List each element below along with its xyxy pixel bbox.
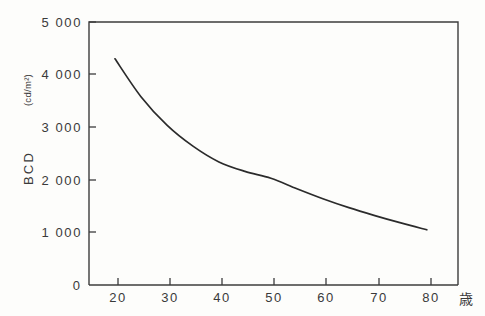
y-tick-label-3000: 3 000 [41, 120, 82, 135]
plot-frame [89, 22, 458, 285]
x-axis-unit-label: 歳 [459, 291, 473, 307]
y-axis-title: BCD [21, 151, 36, 185]
y-axis-ticks [89, 22, 96, 232]
x-tick-label-60: 60 [317, 290, 335, 305]
bcd-decay-curve [115, 59, 427, 230]
x-tick-label-30: 30 [161, 290, 179, 305]
x-tick-label-50: 50 [265, 290, 283, 305]
y-tick-label-2000: 2 000 [41, 173, 82, 188]
bcd-vs-age-line-chart: 5 000 4 000 3 000 2 000 1 000 0 BCD (cd/… [0, 0, 485, 316]
x-tick-label-20: 20 [109, 290, 127, 305]
x-tick-label-80: 80 [422, 290, 440, 305]
y-tick-label-4000: 4 000 [41, 67, 82, 82]
y-axis-unit-label: (cd/m²) [22, 74, 33, 106]
x-tick-label-40: 40 [213, 290, 231, 305]
y-tick-label-1000: 1 000 [41, 225, 82, 240]
x-tick-label-70: 70 [370, 290, 388, 305]
y-tick-label-5000: 5 000 [41, 15, 82, 30]
y-axis-tick-labels: 5 000 4 000 3 000 2 000 1 000 0 [41, 15, 82, 293]
x-axis-tick-labels: 20 30 40 50 60 70 80 [109, 290, 440, 305]
y-tick-label-0: 0 [73, 278, 80, 293]
x-axis-ticks [118, 278, 431, 285]
chart-screenshot: 5 000 4 000 3 000 2 000 1 000 0 BCD (cd/… [0, 0, 485, 316]
